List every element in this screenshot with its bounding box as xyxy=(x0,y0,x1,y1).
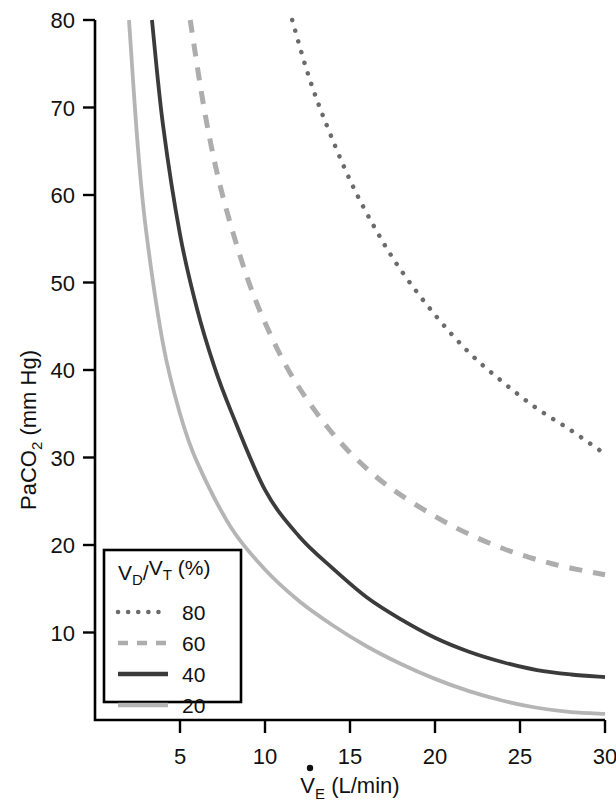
y-axis-title: PaCO2 (mm Hg) xyxy=(16,350,45,510)
y-axis-tick-label: 10 xyxy=(51,621,75,646)
x-axis-tick-label: 20 xyxy=(423,744,447,769)
y-axis-tick-label: 50 xyxy=(51,271,75,296)
y-axis-tick-label: 20 xyxy=(51,533,75,558)
legend-label-40: 40 xyxy=(182,663,205,686)
legend-label-80: 80 xyxy=(182,601,205,624)
x-axis-tick-label: 10 xyxy=(253,744,277,769)
x-axis-tick-label: 15 xyxy=(338,744,362,769)
x-axis-tick-label: 25 xyxy=(508,744,532,769)
x-axis-title: VE (L/min) xyxy=(300,773,399,802)
legend-label-60: 60 xyxy=(182,632,205,655)
series-line-80 xyxy=(292,20,605,454)
y-axis-tick-label: 70 xyxy=(51,96,75,121)
y-axis-tick-label: 30 xyxy=(51,446,75,471)
legend-label-20: 20 xyxy=(182,694,205,717)
y-axis-tick-label: 60 xyxy=(51,183,75,208)
ve-dot-accent-icon xyxy=(307,765,313,771)
paco2-vs-ve-line-chart: 102030405060708051015202530PaCO2 (mm Hg)… xyxy=(0,0,616,804)
y-axis-tick-label: 80 xyxy=(51,8,75,33)
x-axis-tick-label: 30 xyxy=(593,744,616,769)
series-line-60 xyxy=(190,20,605,575)
x-axis-tick-label: 5 xyxy=(174,744,186,769)
y-axis-tick-label: 40 xyxy=(51,358,75,383)
chart-canvas: 102030405060708051015202530PaCO2 (mm Hg)… xyxy=(0,0,616,804)
